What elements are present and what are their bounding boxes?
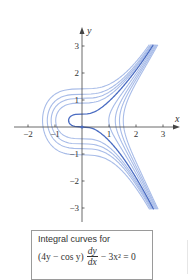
y-axis-label: y	[86, 25, 92, 36]
x-tick-label: 3	[161, 129, 166, 139]
equation-left: (4y − cos y)	[38, 252, 84, 262]
axes: x y	[14, 25, 180, 222]
y-tick-label: −2	[69, 176, 79, 186]
x-tick-label: 2	[134, 129, 139, 139]
y-tick-label: 1	[75, 95, 80, 105]
caption-equation: (4y − cos y) dy dx − 3x² = 0	[38, 246, 136, 267]
fraction-denominator: dx	[87, 257, 98, 267]
y-tick-label: −3	[69, 203, 79, 213]
derivative-fraction: dy dx	[87, 246, 98, 267]
y-tick-label: 2	[75, 68, 80, 78]
y-tick-label: 3	[75, 41, 80, 51]
x-tick-label: −2	[23, 129, 33, 139]
x-axis-arrow-icon	[173, 125, 180, 130]
equation-right: − 3x² = 0	[101, 252, 136, 262]
page-edge-divider	[187, 240, 188, 274]
fraction-numerator: dy	[87, 246, 98, 257]
caption-title: Integral curves for	[38, 234, 110, 244]
y-tick-label: −1	[69, 149, 79, 159]
origin-point-marker	[80, 125, 83, 128]
x-tick-label: −1	[50, 129, 60, 139]
figure-caption-box: Integral curves for (4y − cos y) dy dx −…	[31, 230, 153, 280]
x-tick-label: 1	[107, 129, 112, 139]
y-axis-arrow-icon	[80, 27, 85, 34]
x-axis-label: x	[174, 113, 180, 124]
